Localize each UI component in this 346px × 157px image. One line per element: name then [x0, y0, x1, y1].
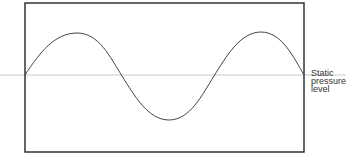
static-pressure-label-line3: level [311, 85, 330, 93]
diagram-frame [25, 3, 304, 152]
waveform-diagram [0, 0, 346, 157]
pressure-wave-curve [25, 32, 304, 120]
